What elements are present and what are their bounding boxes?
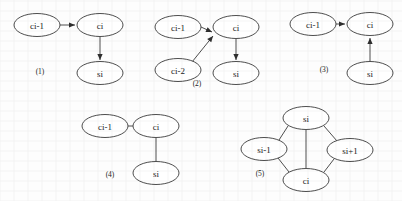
node-ci-minus-1[interactable]: ci-1 [14,14,60,37]
edge-ci-minus-2-to-ci [192,36,213,62]
edge-si-plus-1-ci [324,159,334,172]
edge-ci-to-si-arrowhead-icon [97,54,102,60]
node-ci[interactable]: ci [77,14,123,37]
diagram-2-caption: (2) [193,79,202,88]
edge-si-to-ci [367,38,372,61]
node-si-plus-1-label: si+1 [342,146,358,156]
edge-ci-minus-1-to-ci-arrowhead-icon [69,22,75,27]
edge-si-si-minus-1-line [279,126,288,140]
node-si-label: si [97,69,104,79]
edge-ci-minus-2-to-ci-arrowhead-icon [207,36,213,42]
node-si-minus-1-label: si-1 [257,145,271,155]
diagram-1-caption: (1) [36,67,45,76]
node-ci-minus-1-label: ci-1 [171,23,185,33]
diagram-5: sisi-1si+1ci(5) [241,107,373,192]
figure-canvas: ci-1cisi(1)ci-1ci-2cisi(2)ci-1cisi(3)ci-… [0,0,402,201]
node-ci-minus-1[interactable]: ci-1 [82,115,128,138]
node-ci-minus-1-label: ci-1 [98,122,112,132]
edge-ci-minus-1-to-ci-arrowhead-icon [339,21,345,26]
edge-si-si-plus-1 [324,126,337,141]
node-si-label: si [233,69,240,79]
edge-ci-to-si [97,37,102,60]
node-ci-label: ci [97,21,104,31]
edge-ci-minus-1-to-ci [60,22,75,27]
node-si[interactable]: si [133,162,179,185]
edge-ci-minus-1-to-ci [336,21,345,26]
node-si-label: si [367,69,374,79]
graph-figure: ci-1cisi(1)ci-1ci-2cisi(2)ci-1cisi(3)ci-… [0,0,402,201]
node-si[interactable]: si [77,62,123,85]
edge-si-minus-1-ci [278,158,289,172]
diagram-1: ci-1cisi(1) [14,14,123,85]
diagram-3-caption: (3) [320,65,329,74]
diagram-4: ci-1cisi(4) [82,115,179,185]
edge-si-si-plus-1-line [324,126,337,141]
edge-ci-to-si-arrowhead-icon [233,54,238,60]
node-ci-minus-1[interactable]: ci-1 [290,13,336,36]
edge-si-plus-1-ci-line [324,159,334,172]
node-si[interactable]: si [283,107,329,130]
edge-si-minus-1-ci-line [278,158,289,172]
node-ci[interactable]: ci [133,115,179,138]
edge-ci-minus-1-to-ci [201,27,212,32]
node-si-plus-1[interactable]: si+1 [327,139,373,162]
node-ci-label: ci [303,176,310,186]
diagram-4-caption: (4) [106,170,115,179]
node-ci-label: ci [233,23,240,33]
node-si[interactable]: si [347,62,393,85]
node-ci-minus-1-label: ci-1 [30,21,44,31]
diagram-3: ci-1cisi(3) [290,13,393,85]
edge-si-si-minus-1 [279,126,288,140]
edge-si-to-ci-arrowhead-icon [367,38,372,44]
node-ci-minus-1[interactable]: ci-1 [155,16,201,39]
diagram-2: ci-1ci-2cisi(2) [155,16,259,88]
node-ci[interactable]: ci [347,13,393,36]
node-si-label: si [153,169,160,179]
node-ci[interactable]: ci [213,16,259,39]
node-si[interactable]: si [213,62,259,85]
node-ci-minus-1-label: ci-1 [306,20,320,30]
node-si-label: si [303,114,310,124]
edge-ci-to-si [233,39,238,60]
node-ci-label: ci [153,122,160,132]
node-si-minus-1[interactable]: si-1 [241,138,287,161]
node-ci-label: ci [367,20,374,30]
node-ci-minus-2-label: ci-2 [171,66,185,76]
diagram-5-caption: (5) [256,169,265,178]
node-ci[interactable]: ci [283,169,329,192]
